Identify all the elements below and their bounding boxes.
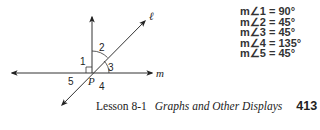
point-label-p: P bbox=[87, 75, 95, 87]
angle-label-3: 3 bbox=[108, 62, 114, 73]
angle-label-4: 4 bbox=[99, 81, 105, 92]
lesson-number: Lesson 8-1 bbox=[96, 100, 147, 112]
angle-label-1: 1 bbox=[80, 56, 86, 67]
line-label-m: m bbox=[156, 67, 164, 79]
angle-label-5: 5 bbox=[68, 76, 74, 87]
measure-angle-1: m∠1 = 90° bbox=[240, 6, 301, 17]
measure-angle-5: m∠5 = 45° bbox=[240, 48, 301, 59]
line-label-l: ℓ bbox=[149, 10, 154, 22]
page-number: 413 bbox=[296, 99, 317, 113]
lesson-title: Graphs and Other Displays bbox=[155, 100, 282, 112]
angle-diagram: 1 2 3 4 5 P ℓ m bbox=[0, 0, 180, 110]
right-angle-mark bbox=[86, 67, 92, 73]
line-l bbox=[62, 21, 145, 105]
page-footer: Lesson 8-1 Graphs and Other Displays 413 bbox=[96, 99, 317, 115]
angle-label-2: 2 bbox=[99, 42, 105, 53]
angle-measures-list: m∠1 = 90° m∠2 = 45° m∠3 = 45° m∠4 = 135°… bbox=[240, 6, 301, 59]
